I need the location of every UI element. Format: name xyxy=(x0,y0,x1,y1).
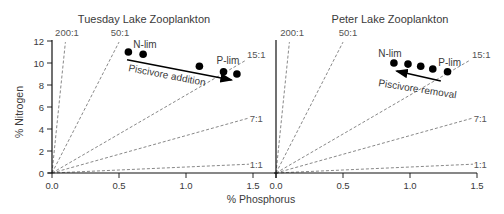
data-point xyxy=(196,63,204,71)
ratio-line xyxy=(276,42,343,173)
ratio-label: 50:1 xyxy=(111,27,130,38)
x-tick-label: 1.0 xyxy=(403,180,416,191)
x-tick-label: 1.5 xyxy=(246,180,259,191)
y-tick-label: 6 xyxy=(39,102,44,113)
ratio-line xyxy=(52,118,249,173)
treatment-arrow-label: Piscivore addition xyxy=(128,62,207,88)
limitation-label: N-lim xyxy=(378,48,401,59)
figure: % Nitrogen % Phosphorus Tuesday Lake Zoo… xyxy=(0,0,504,214)
panel-peter: Peter Lake Zooplankton200:150:115:17:11:… xyxy=(269,13,490,191)
limitation-label: N-lim xyxy=(133,39,156,50)
limitation-label: P-lim xyxy=(438,57,461,68)
ratio-label: 200:1 xyxy=(280,27,304,38)
x-tick-label: 0.5 xyxy=(336,180,349,191)
ratio-label: 1:1 xyxy=(474,159,487,170)
panel-title: Tuesday Lake Zooplankton xyxy=(78,13,210,25)
ratio-label: 15:1 xyxy=(247,49,266,60)
data-point xyxy=(429,65,437,73)
x-tick-label: 1.5 xyxy=(470,180,483,191)
panel-tuesday: Tuesday Lake Zooplankton200:150:115:17:1… xyxy=(33,13,278,191)
x-tick-label: 0.0 xyxy=(45,180,58,191)
ratio-label: 15:1 xyxy=(472,49,491,60)
y-tick-label: 2 xyxy=(39,146,44,157)
treatment-arrow-label: Piscivore removal xyxy=(378,77,458,100)
data-point xyxy=(125,48,133,56)
y-tick-label: 12 xyxy=(33,36,44,47)
y-tick-label: 0 xyxy=(39,168,44,179)
ratio-line xyxy=(276,118,473,173)
data-point xyxy=(404,60,412,68)
y-tick-label: 4 xyxy=(39,124,44,135)
x-axis-label: % Phosphorus xyxy=(227,193,295,205)
ratio-label: 7:1 xyxy=(250,113,263,124)
ratio-line xyxy=(52,164,249,173)
y-axis-label: % Nitrogen xyxy=(13,86,25,138)
data-point xyxy=(444,68,452,76)
ratio-label: 7:1 xyxy=(474,113,487,124)
panel-title: Peter Lake Zooplankton xyxy=(332,13,449,25)
chart-canvas: % Nitrogen % Phosphorus Tuesday Lake Zoo… xyxy=(0,0,504,214)
data-point xyxy=(220,68,228,76)
y-tick-label: 10 xyxy=(33,58,44,69)
data-point xyxy=(139,50,147,58)
ratio-line xyxy=(276,164,473,173)
ratio-line xyxy=(276,61,469,173)
ratio-label: 200:1 xyxy=(55,27,79,38)
data-point xyxy=(390,59,398,67)
ratio-line xyxy=(52,42,65,173)
data-point xyxy=(233,70,241,78)
x-tick-label: 1.0 xyxy=(179,180,192,191)
ratio-label: 50:1 xyxy=(339,27,358,38)
limitation-label: P-lim xyxy=(217,55,240,66)
ratio-line xyxy=(276,42,289,173)
data-point xyxy=(417,63,425,71)
y-tick-label: 8 xyxy=(39,80,44,91)
ratio-line xyxy=(52,42,119,173)
x-tick-label: 0.5 xyxy=(112,180,125,191)
x-tick-label: 0.0 xyxy=(269,180,282,191)
ratio-label: 1:1 xyxy=(250,159,263,170)
